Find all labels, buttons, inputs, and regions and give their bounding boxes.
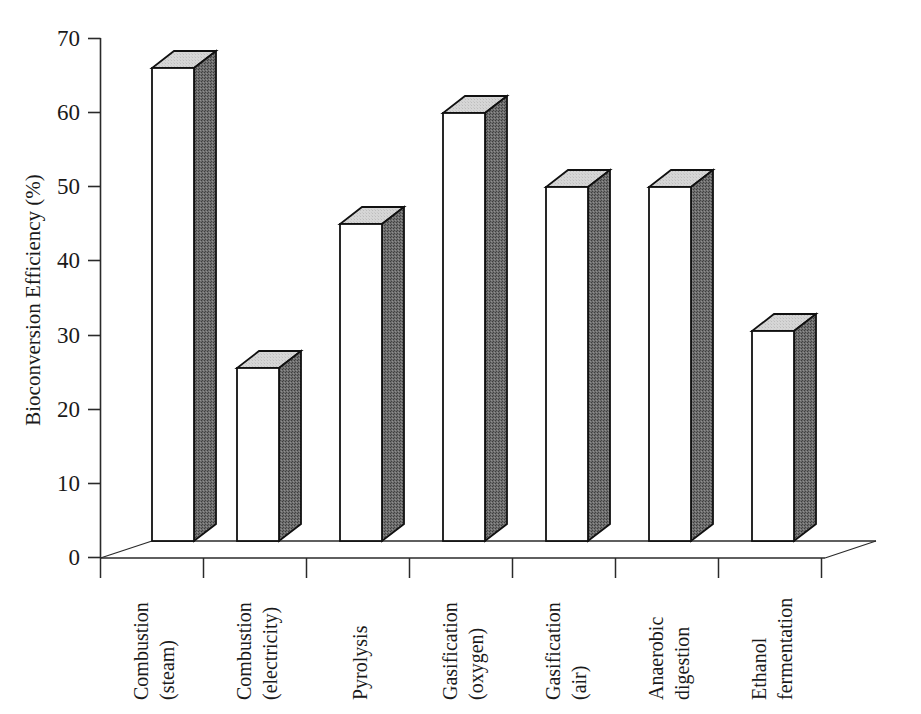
- y-tick-label: 0: [69, 545, 81, 570]
- bar-column: [546, 170, 610, 541]
- y-tick-label: 20: [57, 397, 80, 422]
- x-category-label-line: (steam): [156, 640, 179, 700]
- y-tick-label: 40: [57, 248, 80, 273]
- y-tick-label: 10: [57, 471, 80, 496]
- bar-column: [340, 207, 404, 541]
- bar-chart: 70 60 50 40 30 20 10 0 Bioconversion Eff…: [0, 0, 921, 714]
- x-category-label-line: Gasification: [542, 602, 564, 700]
- y-tick-label: 60: [57, 100, 80, 125]
- y-tick-label: 70: [57, 26, 80, 51]
- x-category-label-line: (air): [568, 666, 591, 700]
- x-category-label-line: (electricity): [259, 607, 282, 700]
- x-category-label-line: Combustion: [130, 602, 152, 700]
- y-axis-title: Bioconversion Efficiency (%): [21, 174, 45, 426]
- x-category-label-line: (oxygen): [465, 628, 488, 700]
- x-category-label-line: Pyrolysis: [349, 625, 372, 700]
- x-category-label-line: fermentation: [774, 598, 796, 700]
- bar-column: [443, 96, 507, 541]
- bar-column: [649, 170, 713, 541]
- bar-column: [152, 51, 216, 541]
- x-category-label-line: digestion: [671, 627, 694, 700]
- x-category-label-line: Combustion: [233, 602, 255, 700]
- x-category-label-line: Ethanol: [748, 637, 770, 700]
- x-category-label-line: Gasification: [439, 602, 461, 700]
- x-category-label-line: Anaerobic: [645, 617, 667, 700]
- x-category-label: Pyrolysis: [349, 625, 372, 700]
- chart-canvas: 70 60 50 40 30 20 10 0 Bioconversion Eff…: [0, 0, 921, 714]
- y-tick-label: 50: [57, 174, 80, 199]
- bar-column: [237, 351, 301, 541]
- bar-column: [752, 314, 816, 541]
- y-tick-label: 30: [57, 323, 80, 348]
